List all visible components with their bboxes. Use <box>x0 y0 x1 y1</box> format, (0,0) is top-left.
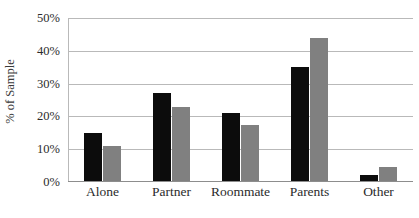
x-tick-label: Partner <box>152 184 191 200</box>
x-tick-label: Parents <box>290 184 330 200</box>
x-tick-label: Alone <box>86 184 119 200</box>
x-tick-label: Roommate <box>211 184 270 200</box>
bar-group <box>360 18 397 182</box>
chart-figure: % of Sample 0%10%20%30%40%50% AlonePartn… <box>0 0 419 218</box>
bar <box>291 67 309 182</box>
y-tick-label: 10% <box>37 142 60 157</box>
y-tick-label: 40% <box>37 43 60 58</box>
bars-layer <box>68 18 413 182</box>
y-tick-label: 30% <box>37 76 60 91</box>
bar <box>103 146 121 182</box>
bar <box>241 125 259 182</box>
y-axis-title-text: % of Sample <box>3 59 18 124</box>
y-tick-label: 0% <box>43 175 60 190</box>
y-tick-label: 20% <box>37 109 60 124</box>
bar <box>84 133 102 182</box>
bar <box>379 167 397 182</box>
bar <box>172 107 190 182</box>
y-axis-title: % of Sample <box>0 0 20 182</box>
bar <box>153 93 171 182</box>
y-tick-label: 50% <box>37 11 60 26</box>
bar-group <box>291 18 328 182</box>
x-axis-line <box>68 181 413 182</box>
bar-group <box>153 18 190 182</box>
y-axis-tick-labels: 0%10%20%30%40%50% <box>18 0 64 182</box>
x-axis-tick-labels: AlonePartnerRoommateParentsOther <box>68 184 413 210</box>
plot-area <box>68 18 413 182</box>
bar-group <box>222 18 259 182</box>
bar <box>310 38 328 182</box>
x-tick-label: Other <box>363 184 394 200</box>
bar <box>222 113 240 182</box>
bar-group <box>84 18 121 182</box>
